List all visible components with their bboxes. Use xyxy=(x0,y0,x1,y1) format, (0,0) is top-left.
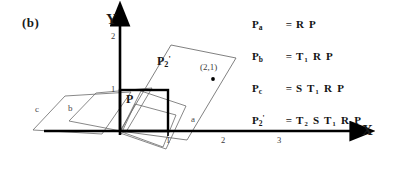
equation-pb-eq: = xyxy=(282,50,296,62)
figure-canvas xyxy=(0,0,410,169)
coordinate-label: (2,1) xyxy=(200,63,217,72)
equation-pc-sub: c xyxy=(259,87,262,96)
equation-pc: Pc=S T₁ R P xyxy=(252,82,345,96)
shape-c-outline xyxy=(33,92,131,134)
equation-pa-lhs: Pa xyxy=(252,18,282,32)
x-axis-label: X xyxy=(362,123,373,138)
transformation-figure: (b) Y X 2 1 1 2 3 c b a P P2' (2,1) Pa=R… xyxy=(0,0,410,169)
equation-pa-sub: a xyxy=(259,23,263,32)
equation-pb-sub: b xyxy=(259,55,263,64)
equation-pa: Pa=R P xyxy=(252,18,317,32)
shape-p2prime-outline xyxy=(120,45,236,140)
panel-label: (b) xyxy=(22,16,39,29)
shape-label-a: a xyxy=(191,115,195,124)
shape-label-b: b xyxy=(68,104,73,113)
x-tick-2: 2 xyxy=(221,136,225,145)
x-tick-1: 1 xyxy=(166,136,170,145)
equation-p2prime-lhs: P2' xyxy=(252,114,282,128)
shape-label-p2-prime: P2' xyxy=(157,55,171,69)
equation-pb-base: P xyxy=(252,50,259,62)
equation-p2prime-tick: ' xyxy=(262,114,264,123)
shape-label-c: c xyxy=(35,105,39,114)
equation-p2prime-base: P xyxy=(252,114,259,126)
equation-pa-base: P xyxy=(252,18,259,30)
shape-label-p: P xyxy=(126,93,133,105)
equation-pc-eq: = xyxy=(282,82,296,94)
equation-pb-rhs: T₁ R P xyxy=(296,50,334,62)
x-tick-3: 3 xyxy=(277,136,281,145)
equation-pc-lhs: Pc xyxy=(252,82,282,96)
y-tick-1: 1 xyxy=(111,85,115,94)
equation-pc-rhs: S T₁ R P xyxy=(296,82,345,94)
equation-pc-base: P xyxy=(252,82,259,94)
equation-p2prime: P2'=T₂ S T₁ R P xyxy=(252,114,362,128)
equation-pa-eq: = xyxy=(282,18,296,30)
equation-p2prime-rhs: T₂ S T₁ R P xyxy=(296,114,362,126)
equation-p2prime-eq: = xyxy=(282,114,296,126)
equation-pa-rhs: R P xyxy=(296,18,317,30)
equation-pb: Pb=T₁ R P xyxy=(252,50,334,64)
y-tick-2: 2 xyxy=(111,32,115,41)
p2-prime-tick: ' xyxy=(168,55,170,64)
coordinate-point-marker xyxy=(211,77,215,81)
y-axis-label: Y xyxy=(106,12,117,27)
equation-pb-lhs: Pb xyxy=(252,50,282,64)
